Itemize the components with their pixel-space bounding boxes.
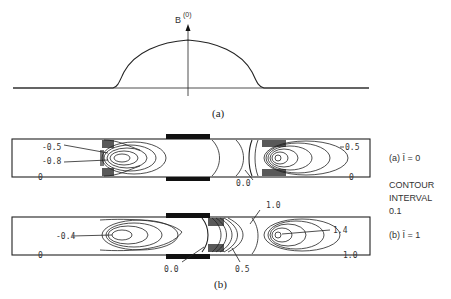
contour-label: 1.4 bbox=[333, 226, 348, 235]
contour-interval-line2: INTERVAL bbox=[389, 193, 432, 203]
caption-b: (b) bbox=[214, 278, 227, 291]
contour-label: 0.0 bbox=[164, 265, 179, 274]
right-vortex-contours bbox=[262, 140, 348, 176]
contour-label: 0.5 bbox=[345, 143, 360, 152]
contour-interval-line3: 0.1 bbox=[389, 206, 402, 216]
contour-label: 1.0 bbox=[266, 201, 281, 210]
left-vortex-contours bbox=[100, 219, 182, 250]
left-vortex-contours bbox=[100, 140, 166, 176]
figure: B (0) (a) bbox=[0, 0, 451, 299]
contour-label: 0 bbox=[38, 173, 43, 182]
profile-plot: B (0) (a) bbox=[13, 11, 369, 120]
contour-label: 0.5 bbox=[235, 265, 250, 274]
contour-plot-bottom: -0.4 0 0.0 0.5 1.0 1.4 1.0 bbox=[12, 201, 370, 274]
contour-label: 0 bbox=[38, 251, 43, 260]
contour-label: -0.5 bbox=[42, 143, 61, 152]
contour-label: 0.0 bbox=[236, 179, 251, 188]
thick-bar-top bbox=[166, 134, 210, 139]
arrow-up-icon bbox=[186, 24, 191, 31]
profile-curve bbox=[13, 40, 369, 88]
middle-contours bbox=[202, 218, 258, 254]
caption-a: (a) bbox=[212, 107, 225, 120]
contour-label: -0.4 bbox=[56, 232, 75, 241]
contour-label: 0 bbox=[349, 173, 354, 182]
contour-plot-top: -0.5 -0.8 0 0.0 0.5 0 bbox=[12, 134, 370, 188]
thick-bar-bottom bbox=[166, 177, 210, 181]
side-label-a: (a) Ī = 0 bbox=[389, 153, 420, 163]
thick-bar-top bbox=[166, 213, 210, 218]
contour-label: -0.8 bbox=[42, 157, 61, 166]
axis-label: B bbox=[175, 15, 181, 25]
right-vortex-contours bbox=[264, 219, 340, 251]
side-label-b: (b) Ī = 1 bbox=[389, 230, 420, 240]
axis-superscript: (0) bbox=[183, 11, 192, 19]
plot-frame bbox=[12, 139, 370, 177]
contour-label: 1.0 bbox=[343, 251, 358, 260]
contour-interval-line1: CONTOUR bbox=[389, 180, 435, 190]
